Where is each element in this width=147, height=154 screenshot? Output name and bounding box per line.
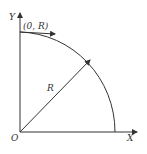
point-label: (0, R) xyxy=(23,22,48,31)
origin-label: O xyxy=(11,134,18,143)
y-axis-label: Y xyxy=(9,13,15,22)
x-axis-label: X xyxy=(127,134,133,143)
radius-vector xyxy=(20,60,90,132)
quarter-circle-diagram: Y (0, R) R O X xyxy=(0,0,147,154)
radius-label: R xyxy=(47,84,54,93)
